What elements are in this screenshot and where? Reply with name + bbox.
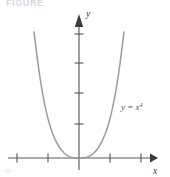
y-axis-arrowhead [75, 14, 83, 27]
curve-equation-exponent: 4 [140, 102, 143, 108]
graph-plot: y x y = x4 [0, 0, 170, 177]
y-axis-label: y [85, 9, 91, 19]
figure-container: FIGURE y x y = x4 [0, 0, 170, 177]
x-axis-label: x [152, 166, 158, 176]
x-axis-arrowhead [150, 154, 158, 163]
curve-equation-label: y = x4 [120, 102, 143, 112]
registration-crosshair-icon [4, 167, 12, 175]
curve-equation-base: y = x [120, 102, 140, 112]
